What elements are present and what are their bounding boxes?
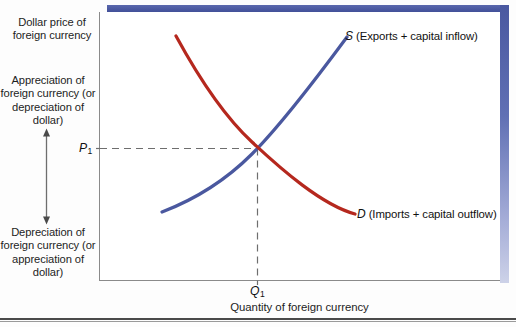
- y-axis-title: Dollar price of foreign currency: [6, 16, 98, 43]
- bottom-divider: [0, 318, 516, 320]
- price-symbol: P: [79, 141, 87, 155]
- bottom-divider-secondary: [0, 321, 516, 322]
- price-subscript: 1: [88, 146, 93, 156]
- quantity-subscript: 1: [260, 289, 265, 299]
- supply-text: (Exports + capital inflow): [353, 30, 478, 42]
- double-headed-vertical-arrow-icon: [41, 128, 52, 225]
- demand-symbol: D: [357, 207, 366, 221]
- supply-curve-label: S (Exports + capital inflow): [345, 29, 478, 43]
- x-axis-title: Quantity of foreign currency: [99, 301, 500, 313]
- demand-curve-label: D (Imports + capital outflow): [357, 207, 497, 221]
- depreciation-annotation: Depreciation of foreign currency (or app…: [0, 226, 96, 280]
- supply-symbol: S: [345, 29, 353, 43]
- equilibrium-price-label: P1: [79, 141, 92, 156]
- quantity-symbol: Q: [250, 284, 259, 298]
- equilibrium-quantity-label: Q1: [250, 284, 265, 299]
- figure-canvas: Dollar price of foreign currency Appreci…: [0, 0, 516, 327]
- decorative-right-bar: [500, 5, 509, 283]
- demand-text: (Imports + capital outflow): [366, 208, 497, 220]
- plot-frame: [99, 12, 500, 281]
- appreciation-annotation: Appreciation of foreign currency (or dep…: [0, 74, 96, 128]
